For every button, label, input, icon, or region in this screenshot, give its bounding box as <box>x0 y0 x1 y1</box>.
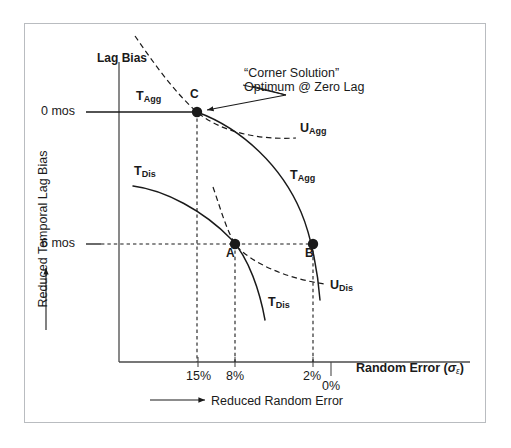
curve-u-dis <box>213 187 325 284</box>
point-label-c: C <box>190 88 199 101</box>
curve-label-u-agg-sub: Agg <box>309 126 327 136</box>
x-tick-label-8: 8% <box>226 369 244 383</box>
curve-label-t-agg-lower-base: T <box>290 168 298 182</box>
x-axis-title: Random Error (σε) <box>356 361 464 376</box>
curve-label-t-agg-upper-sub: Agg <box>144 94 162 104</box>
curve-t-agg <box>197 112 320 300</box>
curve-label-t-dis-lower-sub: Dis <box>276 300 290 310</box>
curve-label-t-dis-lower-base: T <box>268 295 276 309</box>
curve-label-t-dis-upper: TDis <box>134 164 156 179</box>
x-tick-label-15: 15% <box>186 369 211 383</box>
curve-label-u-dis-base: U <box>330 278 339 292</box>
lag-bias-label: Lag Bias <box>97 52 147 65</box>
corner-solution-line-2: Optimum @ Zero Lag <box>244 80 364 94</box>
curve-label-t-dis-lower: TDis <box>268 295 290 310</box>
x-axis-title-main: Random Error ( <box>356 361 448 375</box>
curve-label-u-dis-sub: Dis <box>339 283 353 293</box>
point-label-a: A <box>226 247 235 260</box>
y-tick-label-6mos: 6 mos <box>41 236 75 250</box>
curve-t-dis <box>133 186 265 320</box>
corner-solution-annotation: “Corner Solution” Optimum @ Zero Lag <box>244 66 364 94</box>
curve-label-t-agg-lower-sub: Agg <box>298 173 316 183</box>
curve-label-t-agg-upper-base: T <box>136 89 144 103</box>
figure-root: Lag Bias Reduced Temporal Lag Bias 0 mos… <box>0 0 511 448</box>
curve-label-t-dis-upper-sub: Dis <box>142 169 156 179</box>
curve-label-u-agg: UAgg <box>300 121 327 136</box>
curve-label-t-agg-lower: TAgg <box>290 168 315 183</box>
x-tick-label-2: 2% <box>303 369 321 383</box>
x-axis-title-close: ) <box>460 361 464 375</box>
curve-label-u-agg-base: U <box>300 121 309 135</box>
curve-label-t-agg-upper: TAgg <box>136 89 161 104</box>
corner-solution-line-1: “Corner Solution” <box>244 66 364 80</box>
curve-label-t-dis-upper-base: T <box>134 164 142 178</box>
x-tick-label-0: 0% <box>322 379 340 393</box>
curve-label-u-dis: UDis <box>330 278 353 293</box>
x-axis-direction-label: Reduced Random Error <box>211 394 343 408</box>
y-axis-title: Reduced Temporal Lag Bias <box>36 144 50 314</box>
y-tick-label-0mos: 0 mos <box>41 104 75 118</box>
point-label-b: B <box>305 247 314 260</box>
x-axis-title-sigma: σ <box>448 361 456 375</box>
data-point-c <box>192 107 202 117</box>
